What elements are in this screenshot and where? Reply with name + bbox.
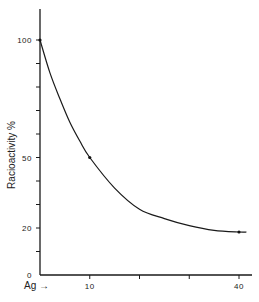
chart: 02050100 1040 Racioactivity % Ag → — [0, 0, 259, 302]
data-point — [38, 38, 41, 41]
data-markers — [38, 38, 240, 233]
y-tick-label: 100 — [17, 36, 32, 45]
x-axis-title: Ag → — [24, 280, 49, 291]
y-ticks: 02050100 — [17, 36, 40, 280]
data-point — [88, 156, 91, 159]
y-tick-label: 20 — [22, 224, 32, 233]
y-tick-label: 0 — [27, 271, 32, 280]
y-tick-label: 50 — [22, 154, 32, 163]
y-axis-title: Racioactivity % — [6, 121, 17, 189]
series-line-radioactivity — [40, 40, 246, 232]
x-tick-label: 10 — [85, 282, 95, 291]
x-ticks: 1040 — [85, 275, 244, 291]
data-point — [237, 230, 240, 233]
x-tick-label: 40 — [234, 282, 244, 291]
axes — [40, 9, 252, 275]
